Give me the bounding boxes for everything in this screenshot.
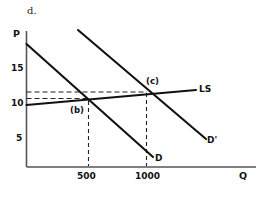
x-tick-1000: 1000	[135, 171, 160, 181]
x-tick-500: 500	[77, 171, 96, 181]
y-tick-10: 10	[11, 98, 24, 108]
point-label-b: (b)	[70, 105, 84, 115]
demand-curve-label: D	[155, 153, 162, 163]
x-axis-label: Q	[239, 170, 247, 181]
y-tick-5: 5	[16, 133, 22, 143]
point-label-c: (c)	[146, 76, 159, 86]
demand-shift-curve-label: D'	[207, 135, 217, 145]
supply-curve-label: LS	[199, 84, 211, 94]
footer-text-fragment	[32, 188, 208, 194]
demand-curve-d	[27, 44, 154, 157]
y-tick-15: 15	[11, 63, 24, 73]
supply-demand-figure: d. P Q 15 10 5 500 1000 D D' LS (b) (c)	[0, 0, 261, 198]
demand-curve-d-prime	[78, 30, 206, 139]
plot-canvas	[0, 0, 261, 198]
y-axis-label: P	[13, 28, 20, 39]
